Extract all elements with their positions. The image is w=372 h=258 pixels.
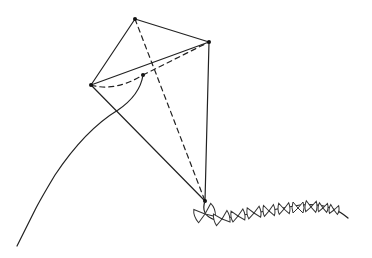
kite-svg [0,0,372,258]
kite-solid-edges [91,19,209,201]
kite-drawing [0,0,372,258]
kite-dashed-edges [91,19,209,201]
kite-string [17,75,143,246]
kite-vertices [89,17,211,203]
